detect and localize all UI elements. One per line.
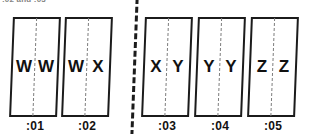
frame-letters: W W bbox=[13, 57, 57, 77]
frame-letters: X Y bbox=[145, 57, 189, 77]
frame-tick-label: :01 bbox=[11, 119, 59, 133]
timeline-frame[interactable]: W X bbox=[61, 17, 113, 117]
timeline-frame[interactable]: X Y bbox=[141, 17, 193, 117]
frame-letters: Y Y bbox=[198, 57, 242, 77]
timeline-frame[interactable]: W W bbox=[9, 17, 61, 117]
frame-left-letter: Z bbox=[251, 57, 273, 77]
top-caption-text: :02 and :03 bbox=[2, 0, 46, 2]
frame-tick-label: :02 bbox=[63, 119, 111, 133]
frame-left-letter: W bbox=[65, 57, 87, 77]
frame-right-letter: W bbox=[35, 57, 57, 77]
timeline-frame[interactable]: Y Y bbox=[194, 17, 246, 117]
frame-left-letter: W bbox=[13, 57, 35, 77]
group-separator-dashed-line bbox=[130, 0, 138, 134]
frame-right-letter: Y bbox=[167, 57, 189, 77]
timeline-frame[interactable]: Z Z bbox=[247, 17, 299, 117]
frame-letters: W X bbox=[65, 57, 109, 77]
timeline-diagram: :02 and :03 W W :01 W X :02 X Y :03 Y Y bbox=[0, 0, 310, 134]
frame-letters: Z Z bbox=[251, 57, 295, 77]
frame-left-letter: X bbox=[145, 57, 167, 77]
frame-right-letter: Y bbox=[220, 57, 242, 77]
frame-tick-label: :03 bbox=[143, 119, 191, 133]
frame-right-letter: X bbox=[87, 57, 109, 77]
frame-right-letter: Z bbox=[273, 57, 295, 77]
frame-tick-label: :04 bbox=[196, 119, 244, 133]
frame-left-letter: Y bbox=[198, 57, 220, 77]
frame-tick-label: :05 bbox=[249, 119, 297, 133]
